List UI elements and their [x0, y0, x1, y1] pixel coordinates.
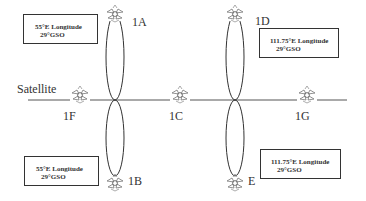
info-box-1B: 55°E Longitude 29°GSO [24, 156, 99, 186]
lobe-E [226, 100, 244, 176]
node-label-1C: 1C [169, 109, 183, 124]
info-box-1D: 111.75°E Longitude 29°GSO [259, 28, 339, 58]
satellite-icon [170, 86, 190, 103]
satellite-icon [105, 5, 125, 22]
longitude-text: 111.75°E Longitude [271, 158, 340, 166]
info-box-E: 111.75°E Longitude 29°GSO [260, 149, 341, 179]
satellite-icon [297, 86, 317, 103]
orbit-text: 29°GSO [35, 31, 97, 39]
node-label-1A: 1A [132, 15, 147, 30]
node-label-1G: 1G [295, 109, 310, 124]
orbit-text: 29°GSO [270, 45, 338, 53]
lobe-1A [106, 14, 124, 100]
node-label-1B: 1B [128, 174, 142, 189]
orbit-text: 29°GSO [271, 166, 340, 174]
orbit-text: 29°GSO [36, 173, 98, 181]
longitude-text: 111.75°E Longitude [270, 37, 338, 45]
node-label-1F: 1F [63, 109, 76, 124]
satellite-icon [225, 5, 245, 22]
satellite-icon [107, 174, 123, 191]
node-label-E: E [248, 174, 255, 189]
longitude-text: 55°E Longitude [36, 165, 98, 173]
satellite-icon [227, 174, 243, 191]
node-label-1D: 1D [255, 14, 270, 29]
info-box-1A: 55°E Longitude 29°GSO [23, 14, 98, 44]
lobe-1B [106, 100, 124, 176]
satellite-label: Satellite [17, 82, 56, 97]
lobe-1D [226, 14, 244, 100]
satellite-icon [70, 86, 90, 103]
longitude-text: 55°E Longitude [35, 23, 97, 31]
